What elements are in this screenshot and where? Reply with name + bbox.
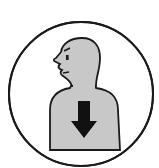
eye-icon: [66, 55, 69, 60]
person-down-arrow-icon: [0, 0, 159, 168]
pictogram: Person feeling down: [0, 0, 159, 168]
mouth-icon: [63, 72, 69, 73]
